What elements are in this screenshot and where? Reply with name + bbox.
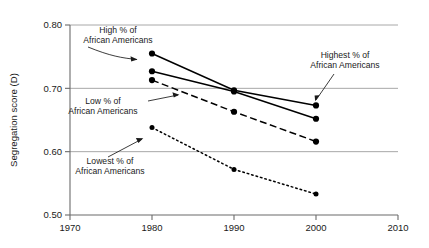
data-point-marker bbox=[314, 192, 319, 197]
y-tick-label-0.60: 0.60 bbox=[44, 146, 63, 157]
data-point-marker bbox=[313, 138, 319, 144]
y-axis-title: Segregation score (D) bbox=[8, 73, 19, 167]
line-chart: 0.500.600.700.80 19701980199020002010 Hi… bbox=[0, 0, 429, 248]
data-point-marker bbox=[149, 77, 155, 83]
y-tick-label-0.80: 0.80 bbox=[44, 19, 63, 30]
data-point-marker bbox=[231, 109, 237, 115]
data-point-marker bbox=[149, 50, 155, 56]
annotation-low-line2: African Americans bbox=[68, 106, 137, 116]
annotation-lowest-line2: African Americans bbox=[75, 166, 144, 176]
y-tick-label-0.70: 0.70 bbox=[44, 83, 63, 94]
data-point-marker bbox=[149, 68, 155, 74]
chart-figure: 0.500.600.700.80 19701980199020002010 Hi… bbox=[0, 0, 429, 248]
x-tick-label-2010: 2010 bbox=[387, 222, 408, 233]
annotation-high-line1: High % of bbox=[99, 25, 137, 35]
x-tick-label-2000: 2000 bbox=[305, 222, 326, 233]
data-point-marker bbox=[232, 167, 237, 172]
x-tick-label-1980: 1980 bbox=[141, 222, 162, 233]
annotation-highest-line2: African Americans bbox=[310, 60, 379, 70]
annotation-lowest-line1: Lowest % of bbox=[87, 156, 134, 166]
data-point-marker bbox=[150, 125, 155, 130]
chart-background bbox=[0, 0, 429, 248]
x-tick-label-1970: 1970 bbox=[59, 222, 80, 233]
x-tick-label-1990: 1990 bbox=[223, 222, 244, 233]
data-point-marker bbox=[313, 102, 319, 108]
annotation-highest-line1: Highest % of bbox=[321, 50, 370, 60]
data-point-marker bbox=[231, 88, 237, 94]
data-point-marker bbox=[313, 116, 319, 122]
annotation-low-line1: Low % of bbox=[85, 96, 121, 106]
y-tick-label-0.50: 0.50 bbox=[44, 209, 63, 220]
annotation-high-line2: African Americans bbox=[83, 35, 152, 45]
